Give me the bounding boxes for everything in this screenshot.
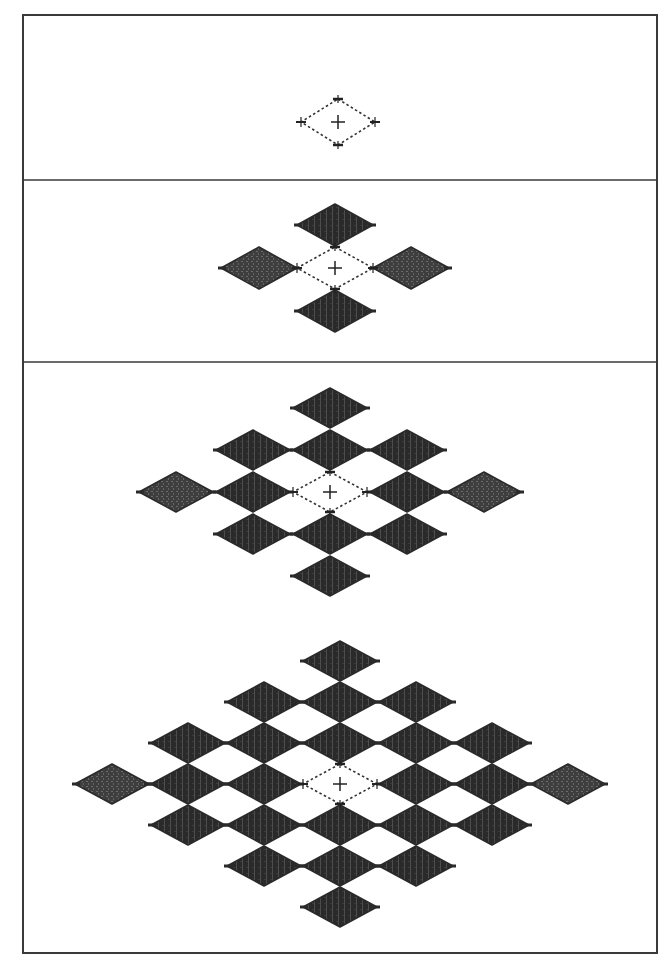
lattice-diamond	[297, 290, 373, 332]
lattice-diamond	[227, 846, 301, 886]
lattice-diamond	[379, 846, 453, 886]
stage-2	[218, 204, 452, 332]
lattice-diamond	[303, 805, 377, 845]
lattice-diamond	[447, 472, 521, 512]
stage-1	[296, 95, 380, 149]
lattice-diamond	[151, 805, 225, 845]
lattice-diamond	[455, 723, 529, 763]
diamond-lattice-svg	[0, 0, 671, 976]
lattice-diamond	[216, 430, 290, 470]
lattice-diamond	[216, 514, 290, 554]
lattice-diamond	[303, 682, 377, 722]
lattice-diamond	[370, 514, 444, 554]
lattice-diamond	[151, 764, 225, 804]
lattice-diamond	[370, 430, 444, 470]
lattice-diamond	[297, 204, 373, 246]
lattice-diamond	[303, 887, 377, 927]
lattice-diamond	[139, 472, 213, 512]
lattice-diamond	[216, 472, 290, 512]
lattice-diamond	[379, 805, 453, 845]
lattice-diamond	[455, 805, 529, 845]
lattice-diamond	[531, 764, 605, 804]
diagram-figure	[0, 0, 671, 976]
stage-3	[136, 388, 524, 596]
lattice-diamond	[455, 764, 529, 804]
lattice-diamond	[303, 641, 377, 681]
lattice-diamond	[379, 723, 453, 763]
lattice-diamond	[293, 514, 367, 554]
lattice-diamond	[293, 430, 367, 470]
stage-4	[72, 641, 608, 927]
lattice-diamond	[303, 846, 377, 886]
lattice-diamond	[373, 247, 449, 289]
lattice-diamond	[227, 805, 301, 845]
lattice-diamond	[303, 723, 377, 763]
lattice-diamond	[221, 247, 297, 289]
lattice-diamond	[227, 723, 301, 763]
lattice-diamond	[151, 723, 225, 763]
lattice-diamond	[227, 682, 301, 722]
lattice-diamond	[227, 764, 301, 804]
lattice-diamond	[293, 388, 367, 428]
stages	[72, 95, 608, 927]
lattice-diamond	[379, 764, 453, 804]
lattice-diamond	[293, 556, 367, 596]
lattice-diamond	[75, 764, 149, 804]
lattice-diamond	[379, 682, 453, 722]
lattice-diamond	[370, 472, 444, 512]
